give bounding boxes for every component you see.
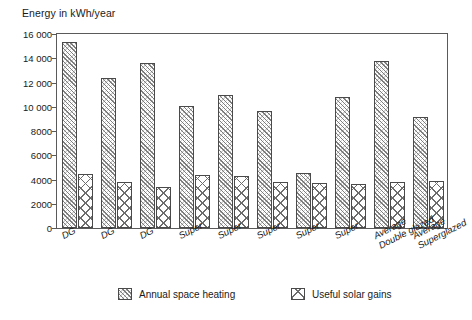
legend-label-annual-space-heating: Annual space heating: [139, 289, 235, 300]
bar-group: [413, 34, 445, 228]
legend-item-useful-solar-gains: Useful solar gains: [291, 288, 391, 300]
bar-chart: Energy in kWh/year 16 00014 00012 00010 …: [0, 0, 472, 320]
bar-annual-space-heating: [218, 95, 233, 228]
y-tick-label: 16 000: [23, 29, 52, 40]
legend-label-useful-solar-gains: Useful solar gains: [312, 289, 391, 300]
bar-annual-space-heating: [179, 106, 194, 228]
y-tick-mark: [52, 204, 56, 205]
y-tick-label: 6000: [31, 150, 52, 161]
x-axis: DGDGDGSuperSuperSuperSuperSuperAverageDo…: [57, 232, 447, 284]
y-tick-mark: [52, 180, 56, 181]
y-tick-mark: [52, 83, 56, 84]
bar-useful-solar-gains: [78, 174, 93, 228]
bar-group: [374, 34, 406, 228]
bar-group: [257, 34, 289, 228]
legend-item-annual-space-heating: Annual space heating: [118, 288, 235, 300]
bar-annual-space-heating: [101, 78, 116, 228]
bar-annual-space-heating: [140, 63, 155, 228]
bar-annual-space-heating: [296, 173, 311, 228]
y-tick-mark: [52, 34, 56, 35]
bar-group: [179, 34, 211, 228]
y-tick-mark: [52, 58, 56, 59]
y-tick-label: 4000: [31, 174, 52, 185]
bar-group: [335, 34, 367, 228]
bar-group: [101, 34, 133, 228]
bars-layer: [57, 34, 447, 228]
bar-annual-space-heating: [374, 61, 389, 228]
chart-axis-title: Energy in kWh/year: [22, 7, 115, 19]
legend-swatch-useful-solar-gains: [291, 288, 305, 300]
bar-group: [140, 34, 172, 228]
y-tick-label: 8000: [31, 126, 52, 137]
bar-useful-solar-gains: [156, 187, 171, 228]
y-tick-mark: [52, 107, 56, 108]
y-tick-label: 2000: [31, 198, 52, 209]
y-tick-label: 10 000: [23, 101, 52, 112]
bar-annual-space-heating: [62, 42, 77, 228]
legend-swatch-annual-space-heating: [118, 288, 132, 300]
y-tick-mark: [52, 228, 56, 229]
bar-useful-solar-gains: [117, 182, 132, 228]
bar-annual-space-heating: [335, 97, 350, 228]
bar-group: [62, 34, 94, 228]
chart-legend: Annual space heating Useful solar gains: [0, 288, 472, 310]
y-tick-label: 14 000: [23, 53, 52, 64]
bar-group: [296, 34, 328, 228]
bar-annual-space-heating: [257, 111, 272, 228]
bar-group: [218, 34, 250, 228]
y-axis: 16 00014 00012 00010 0008000600040002000…: [0, 33, 52, 229]
y-tick-label: 12 000: [23, 77, 52, 88]
y-tick-mark: [52, 155, 56, 156]
y-tick-mark: [52, 131, 56, 132]
